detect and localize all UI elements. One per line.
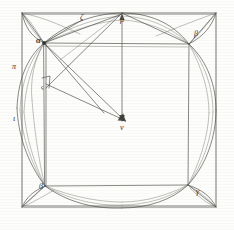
label-gamma: γ	[196, 188, 199, 196]
arc-family-top-right	[156, 13, 216, 44]
geometric-figure: α β ϐ γ ζ μ π ς ι ν	[0, 0, 234, 230]
label-iota: ι	[13, 115, 15, 123]
label-sigma-inner: ς	[41, 84, 44, 91]
label-beta-bottom: ϐ	[39, 183, 43, 191]
arc-family-bottom	[45, 185, 188, 208]
label-beta-top: β	[194, 30, 198, 38]
vertex-markers	[42, 41, 46, 45]
arc-family-right	[188, 44, 216, 185]
label-mu: μ	[120, 16, 124, 24]
label-zeta: ζ	[80, 14, 83, 22]
interior-chords	[42, 13, 189, 186]
label-pi: π	[12, 63, 16, 71]
arc-family-left	[17, 43, 45, 186]
arc-family-bottom-right	[188, 185, 216, 207]
label-alpha: α	[36, 36, 41, 45]
arc-family-top	[44, 13, 189, 44]
label-nu: ν	[120, 124, 124, 132]
